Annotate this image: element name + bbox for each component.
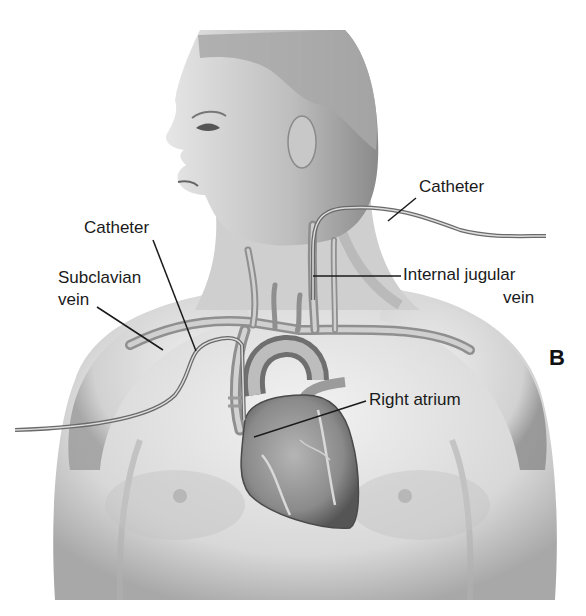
catheter-label-left: Catheter — [84, 218, 149, 238]
right-atrium-label: Right atrium — [369, 390, 461, 410]
subclavian-vein-label-line1: Subclavian — [58, 268, 141, 288]
head — [166, 30, 378, 245]
panel-letter: B — [549, 345, 565, 371]
catheter-label-right: Catheter — [419, 177, 484, 197]
internal-jugular-vein-label-line1: Internal jugular — [403, 265, 515, 285]
illustration: Catheter Catheter Subclavian vein Intern… — [0, 0, 586, 616]
subclavian-vein-label-line2: vein — [58, 290, 89, 310]
internal-jugular-vein-label-line2: vein — [503, 288, 534, 308]
